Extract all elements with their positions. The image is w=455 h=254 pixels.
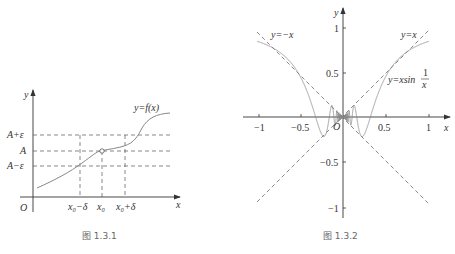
- y-tick-05: 0.5: [326, 68, 339, 79]
- y-tick-a: A: [19, 145, 27, 156]
- curve-label: y=f(x): [133, 102, 160, 114]
- label-frac-num: 1: [423, 67, 428, 78]
- x-axis-label: x: [175, 199, 181, 210]
- y-tick-neg-05: −0.5: [320, 157, 338, 168]
- x-tick-05: 0.5: [378, 122, 391, 133]
- x-axis-label-2: x: [443, 122, 449, 133]
- label-curve: y=xsin 1 x: [387, 67, 429, 90]
- origin-label: O: [20, 202, 27, 213]
- label-y-eq-x: y=x: [400, 29, 417, 40]
- y-tick-neg-1: −1: [328, 203, 339, 214]
- x-tick-x0: x₀: [96, 201, 105, 212]
- label-y-eq-neg-x: y=−x: [270, 29, 294, 40]
- y-tick-a-minus-eps: A−ε: [6, 160, 24, 171]
- x-tick-neg-1: −1: [254, 122, 265, 133]
- x-tick-x0-plus-delta: x₀+δ: [115, 201, 136, 212]
- x-tick-1: 1: [426, 122, 431, 133]
- label-frac-den: x: [421, 79, 427, 90]
- y-tick-a-plus-eps: A+ε: [6, 129, 24, 140]
- y-tick-1: 1: [334, 23, 339, 34]
- hollow-point: [100, 149, 104, 153]
- figure-1: y x O y=f(x) A+ε A A−ε x₀−δ x₀ x₀+δ 图 1.…: [6, 89, 181, 241]
- x-tick-neg-05: −0.5: [291, 122, 309, 133]
- figures-canvas: y x O y=f(x) A+ε A A−ε x₀−δ x₀ x₀+δ 图 1.…: [0, 0, 455, 254]
- y-axis-label-2: y: [333, 7, 339, 18]
- figure-2-caption: 图 1.3.2: [323, 231, 358, 241]
- figure-2: −1 −0.5 0.5 1 1 0.5 −0.5 −1 y x O y=−x y…: [243, 7, 450, 241]
- label-curve-main: y=xsin: [387, 74, 415, 85]
- y-axis-label: y: [23, 89, 29, 100]
- tick-marks: [259, 28, 429, 208]
- origin-label-2: O: [333, 121, 340, 132]
- figure-1-caption: 图 1.3.1: [82, 231, 117, 241]
- x-tick-x0-minus-delta: x₀−δ: [67, 201, 88, 212]
